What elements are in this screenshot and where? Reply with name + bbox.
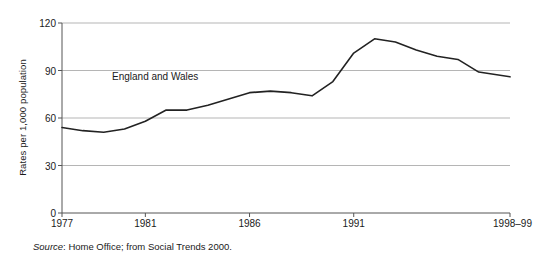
source-text: : Home Office; from Social Trends 2000. [63,241,232,252]
x-axis-tick-label: 1991 [343,218,365,229]
series-annotation-england-and-wales: England and Wales [112,71,198,82]
gridlines [58,23,510,213]
source-prefix: Source [33,241,63,252]
x-axis-tick-label: 1981 [134,218,156,229]
source-note: Source: Home Office; from Social Trends … [33,241,232,252]
x-axis-ticks [62,213,510,217]
chart-figure: Rates per 1,000 population 0306090120 19… [0,0,551,266]
x-axis-tick-label: 1977 [51,218,73,229]
plot-area [0,0,551,266]
x-axis-tick-label: 1986 [238,218,260,229]
x-axis-tick-label: 1998–99 [493,218,532,229]
